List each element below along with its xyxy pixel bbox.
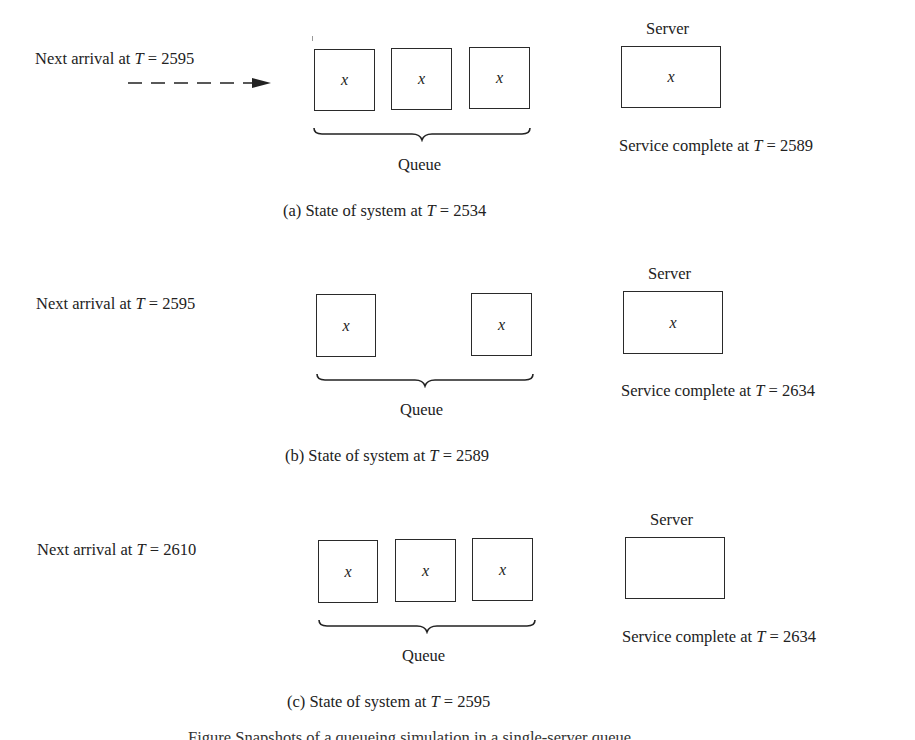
panel-caption: (b) State of system at T = 2589 — [285, 446, 489, 466]
panel-caption: (c) State of system at T = 2595 — [287, 692, 490, 712]
stray-mark — [312, 36, 313, 41]
server-label: Server — [648, 264, 691, 284]
queue-brace-icon — [315, 372, 537, 388]
arrival-arrow-icon — [126, 77, 274, 89]
queue-brace-icon — [312, 126, 534, 142]
queue-label: Queue — [402, 646, 445, 666]
queue-label: Queue — [398, 155, 441, 175]
server-label: Server — [650, 510, 693, 530]
queue-slot: x — [318, 540, 378, 603]
next-arrival-label: Next arrival at T = 2595 — [36, 294, 195, 314]
queue-slot: x — [469, 47, 530, 109]
service-complete-label: Service complete at T = 2589 — [619, 136, 813, 156]
service-complete-label: Service complete at T = 2634 — [622, 627, 816, 647]
queue-label: Queue — [400, 400, 443, 420]
queue-slot: x — [391, 48, 452, 110]
queue-slot: x — [471, 293, 532, 356]
next-arrival-label: Next arrival at T = 2610 — [37, 540, 196, 560]
queue-brace-icon — [317, 618, 539, 634]
server-box — [625, 537, 725, 599]
server-label: Server — [646, 19, 689, 39]
server-box: x — [621, 46, 721, 108]
queue-slot: x — [472, 538, 533, 601]
queue-slot: x — [395, 539, 456, 602]
next-arrival-label: Next arrival at T = 2595 — [35, 49, 194, 69]
queue-slot: x — [316, 294, 376, 357]
figure-caption-clipped: Figure Snapshots of a queueing simulatio… — [0, 728, 915, 740]
panel-caption: (a) State of system at T = 2534 — [283, 201, 486, 221]
service-complete-label: Service complete at T = 2634 — [621, 381, 815, 401]
server-box: x — [623, 291, 723, 354]
queue-slot: x — [314, 49, 375, 111]
